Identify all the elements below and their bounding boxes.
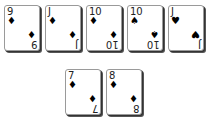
spade-icon: ♠ [150,29,159,39]
card-rank: J [198,39,201,50]
heart-icon: ♥ [191,29,200,39]
card-rank: 10 [106,39,119,50]
card-rank: J [75,39,78,50]
card-rank: 10 [147,39,160,50]
card-8-diamonds[interactable]: 8 ♦ ♦ 8 [106,69,142,115]
card-10-diamonds[interactable]: 10 ♦ ♦ 10 [86,5,122,51]
diamond-icon: ♦ [48,16,57,26]
diamond-icon: ♦ [68,80,77,90]
diamond-icon: ♦ [68,29,77,39]
diamond-icon: ♦ [89,16,98,26]
diamond-icon: ♦ [109,80,118,90]
diamond-icon: ♦ [109,29,118,39]
card-j-diamonds[interactable]: J ♦ ♦ J [45,5,81,51]
card-10-spades[interactable]: 10 ♠ ♠ 10 [127,5,163,51]
card-9-diamonds[interactable]: 9 ♦ ♦ 9 [4,5,40,51]
spade-icon: ♠ [130,16,139,26]
card-7-diamonds[interactable]: 7 ♦ ♦ 7 [65,69,101,115]
diamond-icon: ♦ [88,93,97,103]
diamond-icon: ♦ [7,16,16,26]
diamond-icon: ♦ [27,29,36,39]
card-rank: 7 [92,103,98,114]
card-j-hearts[interactable]: J ♥ ♥ J [168,5,204,51]
diamond-icon: ♦ [129,93,138,103]
card-rank: 9 [31,39,37,50]
heart-icon: ♥ [171,16,180,26]
card-rank: 8 [133,103,139,114]
